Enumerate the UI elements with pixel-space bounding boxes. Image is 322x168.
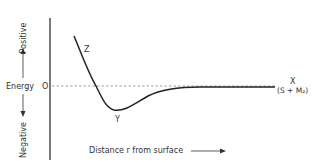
zero-label: O [42,82,48,91]
right-arrow-icon [220,149,226,154]
point-y-label: Y [114,115,120,124]
point-x-label: X [290,77,296,86]
down-arrow-icon [21,111,26,117]
energy-label: Energy [6,82,34,91]
x-axis-label: Distance r from surface [89,146,183,155]
point-x-sublabel: (S + M₂) [277,86,308,95]
energy-curve [74,36,275,110]
positive-label: Positive [19,23,28,54]
energy-diagram: Positive Energy O Negative Z Y X (S + M₂… [0,0,322,168]
negative-label: Negative [19,122,28,158]
point-z-label: Z [84,45,90,54]
